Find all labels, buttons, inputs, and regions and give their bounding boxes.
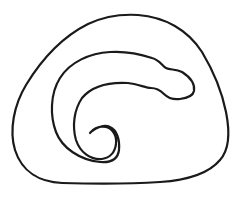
outer-loop: [12, 15, 228, 184]
spiral: [52, 52, 194, 162]
drawing-canvas: Line drawing of a closed rounded-triangu…: [0, 0, 242, 200]
line-drawing: [0, 0, 242, 200]
